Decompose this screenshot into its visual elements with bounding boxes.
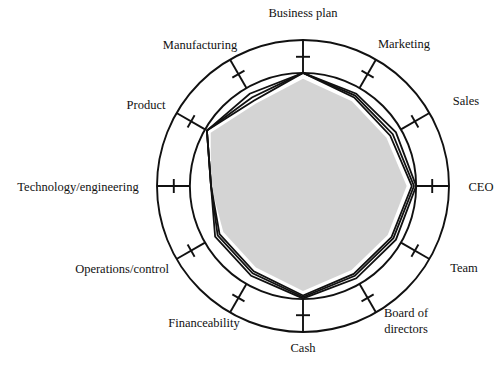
axis-label-operations-control: Operations/control bbox=[75, 262, 169, 276]
axis-label-manufacturing: Manufacturing bbox=[163, 38, 238, 52]
radar-chart: Business plan Marketing Sales CEO Team B… bbox=[0, 0, 504, 369]
axis-label-ceo: CEO bbox=[469, 180, 494, 194]
tick-operations-control bbox=[188, 245, 195, 257]
tick-team bbox=[411, 245, 418, 257]
axis-label-board-of-directors-line2: directors bbox=[384, 322, 428, 336]
radar-chart-svg: Business plan Marketing Sales CEO Team B… bbox=[0, 0, 504, 369]
tick-manufacturing bbox=[232, 71, 244, 78]
axis-label-technology-engineering: Technology/engineering bbox=[17, 180, 139, 194]
axis-label-cash: Cash bbox=[291, 341, 317, 355]
axis-label-product: Product bbox=[127, 98, 166, 112]
axis-label-financeability: Financeability bbox=[168, 316, 240, 330]
axis-label-marketing: Marketing bbox=[378, 37, 431, 51]
axis-label-sales: Sales bbox=[453, 94, 480, 108]
axis-label-board-of-directors-line1: Board of bbox=[384, 306, 429, 320]
tick-marketing bbox=[362, 71, 374, 78]
axis-label-team: Team bbox=[450, 261, 478, 275]
tick-product bbox=[188, 115, 195, 127]
tick-financeability bbox=[232, 294, 244, 301]
tick-board-of-directors bbox=[362, 294, 374, 301]
axis-label-business-plan: Business plan bbox=[268, 6, 338, 20]
tick-sales bbox=[411, 115, 418, 127]
